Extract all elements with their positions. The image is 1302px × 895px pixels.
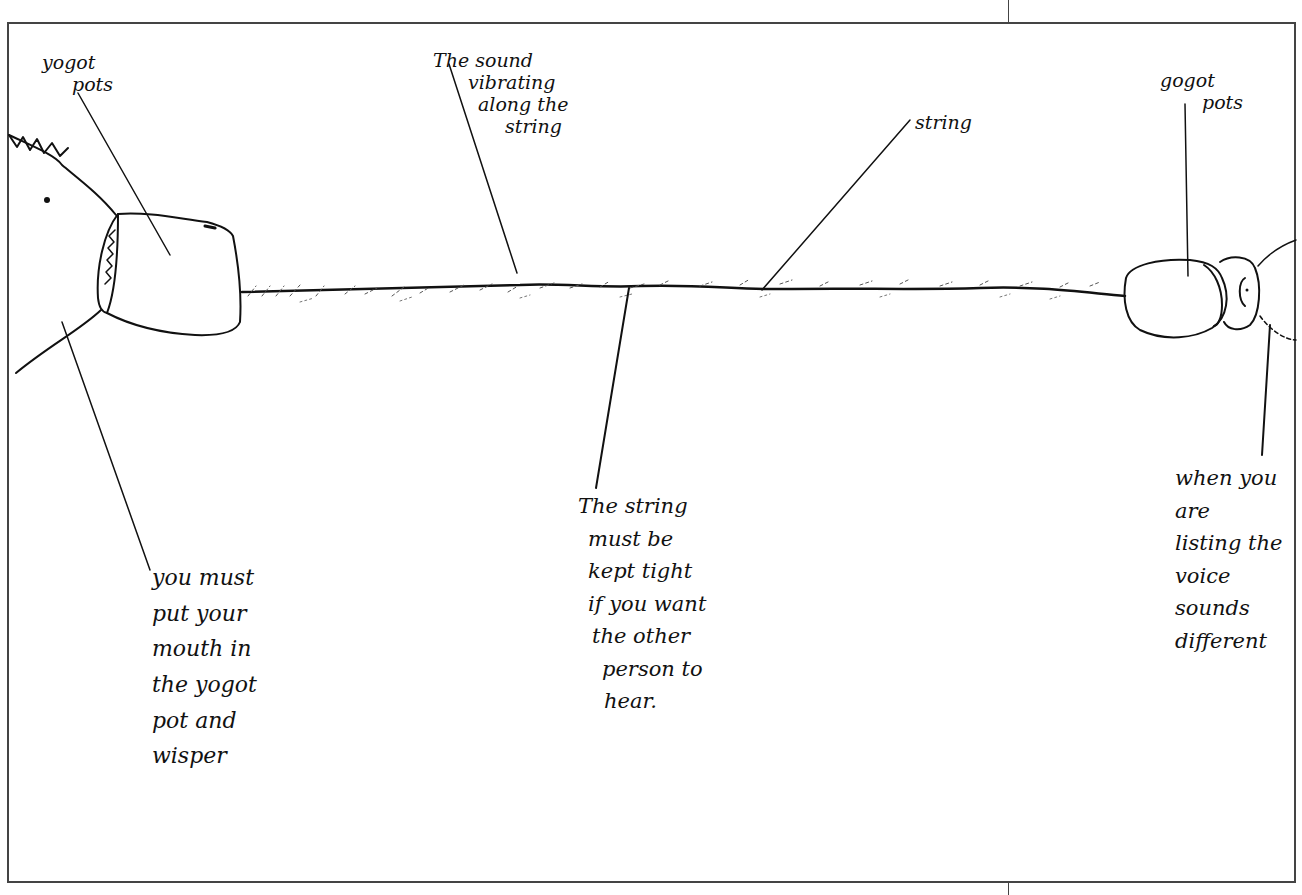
left-person-icon: [9, 135, 116, 373]
right-person-ear-icon: [1220, 240, 1296, 340]
label-string: string: [915, 112, 972, 134]
label-sound-vibrating: The sound vibrating along the string: [433, 50, 568, 137]
label-right-yoghurt-pots: gogot pots: [1160, 70, 1243, 114]
label-left-yoghurt-pots: yogot pots: [42, 52, 113, 96]
label-mouth-instructions: you must put your mouth in the yogot pot…: [152, 560, 257, 774]
label-string-tight: The string must be kept tight if you wan…: [578, 490, 706, 718]
right-yoghurt-pot-icon: [1125, 260, 1227, 338]
string-line: [242, 279, 1125, 302]
left-yoghurt-pot-icon: [98, 214, 241, 336]
label-listening-note: when you are listing the voice sounds di…: [1175, 462, 1282, 657]
